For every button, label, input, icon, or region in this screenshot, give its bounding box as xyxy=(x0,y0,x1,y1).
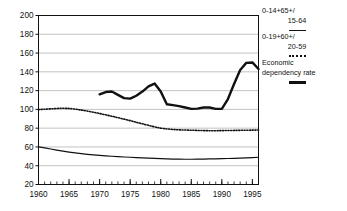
legend-entry-0-line1: 0-14+65+/ xyxy=(262,6,346,16)
ytick-label-60: 60 xyxy=(24,143,34,152)
series-line-1 xyxy=(39,108,259,130)
legend-entry-1-line2: 20-59 xyxy=(262,42,346,52)
legend-swatch-2-wrap xyxy=(262,77,346,83)
xtick-label-1985: 1985 xyxy=(182,190,201,199)
ytick-label-100: 100 xyxy=(20,105,34,114)
legend-entry-1: 0-19+60+/ 20-59 xyxy=(262,32,346,57)
legend-entry-2-line1: Economic xyxy=(262,58,346,68)
xtick-label-1960: 1960 xyxy=(29,190,48,199)
legend-swatch-dotted-icon xyxy=(289,55,306,57)
ytick-label-120: 120 xyxy=(20,86,34,95)
ytick-label-80: 80 xyxy=(24,124,34,133)
ytick-label-160: 160 xyxy=(20,49,34,58)
dependency-rate-chart-figure: 2040608010012014016018020019601965197019… xyxy=(0,0,347,211)
xtick-label-1990: 1990 xyxy=(213,190,232,199)
ytick-label-140: 140 xyxy=(20,68,34,77)
xtick-label-1975: 1975 xyxy=(121,190,140,199)
legend-swatch-thin-solid-icon xyxy=(289,30,306,31)
legend-entry-2-line2: dependency rate xyxy=(262,68,346,78)
xtick-label-1995: 1995 xyxy=(243,190,262,199)
xtick-label-1970: 1970 xyxy=(91,190,110,199)
ytick-label-200: 200 xyxy=(20,11,34,20)
series-line-2 xyxy=(100,62,259,108)
xtick-label-1965: 1965 xyxy=(60,190,79,199)
legend-swatch-1-wrap xyxy=(262,51,346,57)
legend-entry-0: 0-14+65+/ 15-64 xyxy=(262,6,346,31)
chart-legend: 0-14+65+/ 15-64 0-19+60+/ 20-59 Economic… xyxy=(262,6,346,84)
legend-entry-0-line2: 15-64 xyxy=(262,16,346,26)
legend-swatch-0-wrap xyxy=(262,25,346,31)
series-line-0 xyxy=(39,147,259,159)
ytick-label-180: 180 xyxy=(20,30,34,39)
legend-entry-1-line1: 0-19+60+/ xyxy=(262,32,346,42)
ytick-label-40: 40 xyxy=(24,162,34,171)
legend-swatch-thick-solid-icon xyxy=(289,81,306,84)
xtick-label-1980: 1980 xyxy=(152,190,171,199)
ytick-label-20: 20 xyxy=(24,180,34,189)
legend-entry-2: Economic dependency rate xyxy=(262,58,346,83)
